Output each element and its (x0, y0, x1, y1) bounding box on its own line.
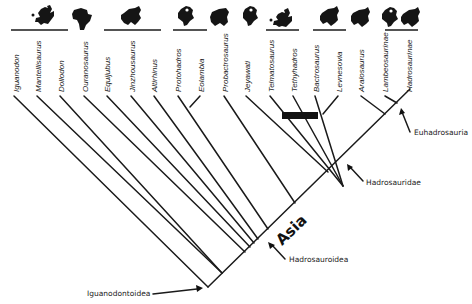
branch-lambeosaurinae (385, 96, 397, 103)
asia-icon (210, 8, 229, 26)
tethyhadros-bar-marker (282, 112, 318, 119)
branch-aralosaurus (361, 96, 385, 114)
branch-bactrosaurus (315, 96, 343, 186)
clade-label-hadrosauridae: Hadrosauridae (366, 178, 421, 187)
taxon-labels: Iguanodon Mantellisaurus Dollodon Ourano… (12, 32, 414, 93)
asia-icon (320, 6, 339, 26)
taxon-protohadros: Protohadros (174, 48, 183, 92)
branch-ouranosaurus (84, 96, 245, 252)
north-america-icon (178, 6, 194, 26)
clade-annotations: Euhadrosauria Hadrosauridae Hadrosauroid… (87, 108, 468, 298)
clade-label-euhadrosauria: Euhadrosauria (414, 128, 468, 137)
taxon-iguanodon: Iguanodon (12, 54, 21, 92)
taxon-jinzhousaurus: Jinzhousaurus (128, 40, 137, 93)
asia-icon (121, 6, 141, 25)
asia-region-label: Asia (272, 211, 310, 249)
tree-branches (14, 89, 410, 287)
branch-telmatosaurus (270, 96, 343, 186)
taxon-levnesovia: Levnesovia (335, 51, 344, 92)
taxon-ouranosaurus: Ouranosaurus (81, 41, 90, 92)
cladogram: Iguanodon Mantellisaurus Dollodon Ourano… (0, 0, 472, 304)
branch-eolambia (190, 96, 200, 107)
branch-jeyawati (246, 96, 328, 172)
branch-tethyhadros (293, 96, 343, 186)
branch-protohadros-eolambia (178, 96, 268, 229)
north-america-icon (382, 7, 398, 27)
branch-levnesovia (323, 96, 338, 114)
taxon-lambeosaurinae: Lambeosaurinae (381, 32, 390, 92)
arrowhead-icon (399, 108, 405, 115)
taxon-mantellisaurus: Mantellisaurus (34, 40, 43, 92)
europe-icon (32, 5, 55, 25)
taxon-aralosaurus: Aralosaurus (357, 49, 366, 93)
branch-dollodon (60, 96, 222, 273)
taxon-jeyawati: Jeyawati (243, 61, 252, 93)
taxon-tethyhadros: Tethyhadros (290, 48, 299, 92)
taxon-bactrosaurus: Bactrosaurus (312, 45, 321, 92)
asia-icon (351, 7, 370, 27)
taxon-equijubus: Equijubus (103, 57, 112, 92)
branch-mantellisaurus (37, 96, 222, 273)
taxon-telmatosaurus: Telmatosaurus (267, 40, 276, 92)
taxon-eolambia: Eolambia (197, 58, 206, 92)
taxon-altirhinus: Altirhinus (150, 59, 159, 93)
europe-icon (270, 8, 293, 27)
taxon-hadrosaurinae: Hadrosaurinae (405, 39, 414, 92)
branch-altirhinus (154, 96, 258, 239)
arrowhead-icon (196, 285, 203, 292)
branch-iguanodon (14, 96, 208, 287)
clade-label-iguanodontoidea: Iguanodontoidea (87, 289, 150, 298)
taxon-probactrosaurus: Probactrosaurus (221, 33, 230, 92)
euhadrosauria-arrow (402, 112, 410, 132)
hadrosauridae-arrow (350, 167, 363, 181)
asia-icon (401, 7, 420, 27)
clade-label-hadrosauroidea: Hadrosauroidea (289, 255, 348, 264)
iguanodontoidea-arrow (153, 289, 197, 294)
north-america-icon (243, 6, 258, 26)
africa-icon (72, 8, 92, 30)
taxon-dollodon: Dollodon (57, 60, 66, 92)
